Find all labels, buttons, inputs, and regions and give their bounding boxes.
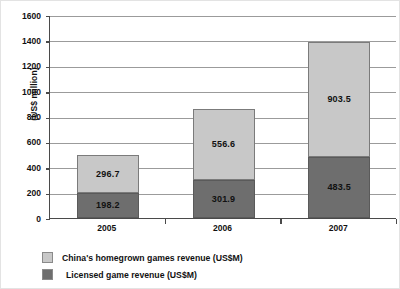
- legend-swatch: [42, 252, 53, 263]
- y-tick-mark: [46, 118, 50, 119]
- x-tick-mark: [280, 219, 281, 224]
- chart-legend: China's homegrown games revenue (US$M)Li…: [42, 249, 243, 283]
- bar-segment-licensed: 198.2: [77, 193, 139, 218]
- y-tick-label: 1000: [1, 87, 41, 97]
- legend-item: China's homegrown games revenue (US$M): [42, 249, 243, 266]
- bar-segment-licensed: 301.9: [193, 180, 255, 218]
- bar-value-label: 903.5: [327, 94, 351, 104]
- y-tick-mark: [46, 168, 50, 169]
- legend-item: Licensed game revenue (US$M): [42, 266, 243, 283]
- y-tick-mark: [46, 41, 50, 42]
- bar-value-label: 198.2: [96, 200, 120, 210]
- legend-swatch: [42, 269, 53, 280]
- stacked-bar: 483.5903.5: [308, 42, 370, 218]
- y-tick-label: 1200: [1, 61, 41, 71]
- y-tick-mark: [46, 194, 50, 195]
- y-tick-label: 200: [1, 188, 41, 198]
- bar-value-label: 483.5: [327, 182, 351, 192]
- bar-segment-homegrown: 556.6: [193, 109, 255, 180]
- bar-segment-licensed: 483.5: [308, 157, 370, 218]
- y-tick-mark: [46, 92, 50, 93]
- legend-label: Licensed game revenue (US$M): [66, 270, 197, 280]
- y-tick-label: 400: [1, 163, 41, 173]
- y-tick-label: 600: [1, 137, 41, 147]
- y-tick-label: 1600: [1, 11, 41, 21]
- y-tick-mark: [46, 16, 50, 17]
- y-tick-mark: [46, 219, 50, 220]
- x-tick-label: 2006: [213, 223, 232, 233]
- x-tick-label: 2007: [329, 223, 348, 233]
- chart-figure: (US$ million) 02004006008001000120014001…: [0, 0, 400, 289]
- y-tick-label: 0: [1, 214, 41, 224]
- bar-value-label: 296.7: [96, 169, 120, 179]
- y-tick-label: 800: [1, 112, 41, 122]
- bar-value-label: 556.6: [212, 139, 236, 149]
- stacked-bar: 198.2296.7: [77, 155, 139, 218]
- y-tick-label: 1400: [1, 36, 41, 46]
- x-tick-mark: [165, 219, 166, 224]
- bar-value-label: 301.9: [212, 194, 236, 204]
- y-tick-mark: [46, 143, 50, 144]
- legend-label: China's homegrown games revenue (US$M): [62, 253, 243, 263]
- y-tick-mark: [46, 67, 50, 68]
- gridline: [50, 16, 396, 17]
- stacked-bar: 301.9556.6: [193, 109, 255, 218]
- bar-segment-homegrown: 903.5: [308, 42, 370, 157]
- plot-area: 198.2296.7301.9556.6483.5903.5: [49, 16, 396, 219]
- bar-segment-homegrown: 296.7: [77, 155, 139, 193]
- x-tick-mark: [396, 219, 397, 224]
- x-tick-label: 2005: [97, 223, 116, 233]
